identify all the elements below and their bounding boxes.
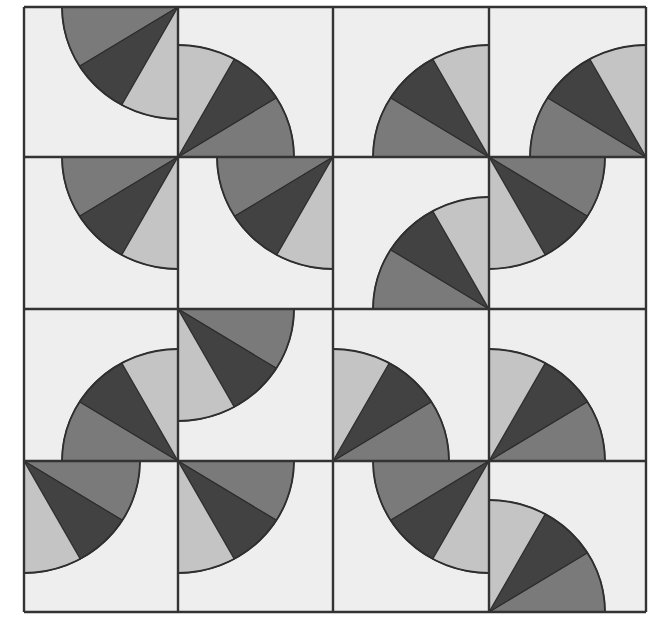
quilt-tile	[178, 309, 333, 461]
quilt-tile	[489, 309, 646, 461]
quilt-tile	[24, 7, 178, 157]
quilt-tile	[489, 461, 646, 612]
quilt-tile	[24, 157, 178, 309]
quilt-tile	[333, 157, 489, 309]
quilt-tile	[178, 461, 333, 612]
quilt-tile	[178, 157, 333, 309]
quilt-tile	[489, 157, 646, 309]
quilt-tile	[333, 309, 489, 461]
quilt-tile	[24, 461, 178, 612]
quilt-tile	[178, 7, 333, 157]
quilt-tile	[489, 7, 646, 157]
quilt-tile	[333, 7, 489, 157]
quilt-tile	[24, 309, 178, 461]
quarter-circle-quilt-diagram	[0, 0, 652, 631]
quilt-tile	[333, 461, 489, 612]
